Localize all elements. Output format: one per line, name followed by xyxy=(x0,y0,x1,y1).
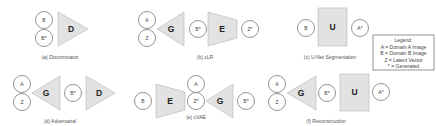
node-z-generated: Z* xyxy=(188,93,205,110)
svg-text:G: G xyxy=(168,24,175,34)
caption-d: (d) Adversarial xyxy=(44,118,76,124)
discriminator-block: D xyxy=(86,76,115,110)
svg-text:Z: Z xyxy=(20,99,23,105)
node-b: B xyxy=(135,93,152,110)
svg-text:U: U xyxy=(329,22,335,32)
panel-reconstruction: A Z G B* U A* (f) Reconstruction xyxy=(269,74,390,124)
svg-text:Z: Z xyxy=(275,99,278,105)
node-a-generated: A* xyxy=(352,20,369,37)
svg-text:B*: B* xyxy=(195,26,200,32)
node-z: Z xyxy=(14,94,31,111)
panel-discriminator: B B* D (a) Discriminator xyxy=(36,12,89,61)
svg-text:G: G xyxy=(298,88,305,98)
svg-text:Z*: Z* xyxy=(248,26,253,32)
generator-block: G xyxy=(287,76,316,110)
svg-text:A*: A* xyxy=(357,25,362,31)
svg-text:U: U xyxy=(351,87,357,97)
node-z-generated: Z* xyxy=(242,21,259,38)
node-b-generated: B* xyxy=(65,85,82,102)
legend: Legend: A = Domain A Image B = Domain B … xyxy=(373,35,434,70)
svg-text:Z: Z xyxy=(145,35,148,41)
panel-adversarial: A Z G B* D (d) Adversarial xyxy=(14,76,116,125)
legend-item: B = Domain B Image xyxy=(380,50,426,56)
caption-c: (c) U-Net Segmentation xyxy=(304,54,357,60)
legend-item: A = Domain A Image xyxy=(381,44,427,50)
svg-text:D: D xyxy=(68,24,74,34)
legend-title: Legend: xyxy=(394,37,412,43)
generator-block: G xyxy=(32,76,60,110)
unet-block: U xyxy=(340,74,369,111)
node-b-generated: B* xyxy=(319,85,336,102)
svg-text:Z*: Z* xyxy=(194,98,199,104)
caption-a: (a) Discriminator xyxy=(42,54,79,60)
caption-f: (f) Reconstruction xyxy=(306,118,346,124)
generator-block: G xyxy=(157,12,184,46)
legend-item: * = Generated xyxy=(388,63,419,69)
svg-text:B*: B* xyxy=(70,90,75,96)
svg-text:A*: A* xyxy=(378,89,383,95)
encoder-block: E xyxy=(156,84,185,118)
caption-b: (b) cLR xyxy=(197,54,214,60)
node-a: A xyxy=(14,76,31,93)
svg-text:D: D xyxy=(96,88,102,98)
svg-text:E: E xyxy=(219,24,225,34)
node-a: A xyxy=(139,12,156,29)
node-z: Z xyxy=(139,30,156,47)
node-b-generated: B* xyxy=(190,21,207,38)
svg-text:G: G xyxy=(43,88,50,98)
svg-text:E: E xyxy=(167,96,173,106)
svg-text:G: G xyxy=(217,96,224,106)
svg-text:B*: B* xyxy=(243,98,248,104)
panel-unet-segmentation: B U A* (c) U-Net Segmentation xyxy=(298,8,369,60)
svg-text:B*: B* xyxy=(324,90,329,96)
node-b: B xyxy=(298,20,315,37)
svg-text:B*: B* xyxy=(41,35,46,41)
node-b-generated: B* xyxy=(36,30,53,47)
node-a: A xyxy=(188,76,205,93)
panel-cvae: B E A Z* G B* (e) cVAE xyxy=(135,76,255,121)
legend-item: Z = Latent Vector xyxy=(384,57,423,63)
node-b: B xyxy=(36,12,53,29)
caption-e: (e) cVAE xyxy=(186,114,206,120)
node-a-generated: A* xyxy=(373,84,390,101)
architecture-diagram: B B* D (a) Discriminator A Z G B* xyxy=(0,0,436,126)
node-b-generated: B* xyxy=(238,93,255,110)
encoder-block: E xyxy=(208,12,237,46)
node-z: Z xyxy=(269,94,286,111)
panel-clr: A Z G B* E Z* (b) cLR xyxy=(139,12,259,61)
discriminator-block: D xyxy=(58,12,88,46)
generator-block: G xyxy=(206,84,233,118)
unet-block: U xyxy=(318,8,347,46)
node-a: A xyxy=(269,76,286,93)
